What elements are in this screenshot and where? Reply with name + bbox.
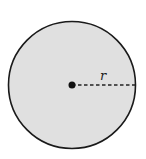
radius-label: r	[100, 68, 107, 83]
center-point	[69, 82, 76, 89]
circle-diagram: r	[0, 0, 146, 159]
